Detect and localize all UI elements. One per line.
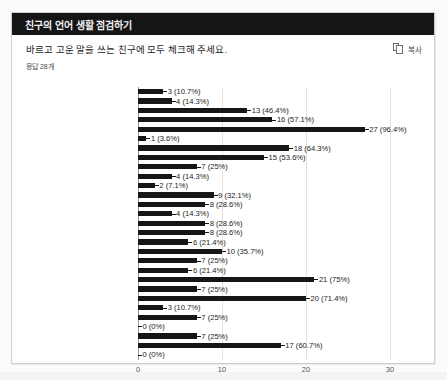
bar [138, 183, 155, 188]
bar-row: 4 (14.3%) [20, 96, 428, 105]
bar-row: 9 (32.1%) [20, 190, 428, 199]
bar-row: 18 (64.3%) [20, 143, 428, 152]
survey-result-card: 친구의 언어 생활 점검하기 바르고 고운 말을 쓰는 친구에 모두 체크해 주… [11, 12, 435, 364]
bar-value-label: 10 (35.7%) [227, 247, 264, 256]
bar-value-label: 4 (14.3%) [176, 172, 209, 181]
bar-value-label: 15 (53.6%) [269, 153, 306, 162]
bar [138, 174, 172, 179]
bar-value-label: 8 (28.6%) [210, 228, 243, 237]
bar [138, 136, 146, 141]
bar-leader-line [138, 326, 142, 327]
bar-row: 4 (14.3%) [20, 172, 428, 181]
bar-leader-line [247, 110, 251, 111]
bar-chart: 01020303 (10.7%)4 (14.3%)13 (46.4%)16 (5… [12, 75, 436, 365]
bar-row: 8 (28.6%) [20, 200, 428, 209]
bar-leader-line [138, 355, 142, 356]
bar-leader-line [281, 345, 285, 346]
bar-leader-line [163, 308, 167, 309]
bar [138, 145, 289, 150]
card-header: 친구의 언어 생활 점검하기 [12, 13, 434, 35]
bar [138, 249, 222, 254]
bar-row: 0 (0%) [20, 350, 428, 359]
bar [138, 221, 205, 226]
bar-value-label: 16 (57.1%) [277, 115, 314, 124]
bar-row: 7 (25%) [20, 313, 428, 322]
bottom-strip [0, 372, 447, 380]
bar-row: 20 (71.4%) [20, 294, 428, 303]
bar [138, 333, 197, 338]
bar-leader-line [197, 336, 201, 337]
bar-row: 13 (46.4%) [20, 106, 428, 115]
bar [138, 192, 214, 197]
bar-leader-line [272, 120, 276, 121]
bar-row: 7 (25%) [20, 284, 428, 293]
bar [138, 202, 205, 207]
bar [138, 98, 172, 103]
bar [138, 211, 172, 216]
bar-leader-line [222, 251, 226, 252]
bar-leader-line [188, 242, 192, 243]
bar-value-label: 18 (64.3%) [294, 144, 331, 153]
bar-value-label: 20 (71.4%) [311, 294, 348, 303]
bar-row: 3 (10.7%) [20, 303, 428, 312]
bar-value-label: 7 (25%) [201, 313, 228, 322]
bar-row: 6 (21.4%) [20, 266, 428, 275]
bar-row: 7 (25%) [20, 256, 428, 265]
bar [138, 108, 247, 113]
bar-row: 2 (7.1%) [20, 181, 428, 190]
bar-row: 7 (25%) [20, 162, 428, 171]
bar-row: 8 (28.6%) [20, 219, 428, 228]
question-text: 바르고 고운 말을 쓰는 친구에 모두 체크해 주세요. [26, 42, 227, 56]
bar-value-label: 13 (46.4%) [252, 106, 289, 115]
bar-leader-line [172, 214, 176, 215]
bar [138, 155, 264, 160]
bar-value-label: 7 (25%) [201, 162, 228, 171]
bar-row: 10 (35.7%) [20, 247, 428, 256]
bar-leader-line [314, 279, 318, 280]
bar-leader-line [172, 101, 176, 102]
bar-value-label: 17 (60.7%) [285, 341, 322, 350]
bar [138, 268, 188, 273]
bar-leader-line [146, 138, 150, 139]
bar [138, 117, 272, 122]
bar-leader-line [197, 289, 201, 290]
bar-leader-line [172, 176, 176, 177]
bar-leader-line [205, 223, 209, 224]
bar-value-label: 9 (32.1%) [218, 191, 251, 200]
bar-row: 8 (28.6%) [20, 228, 428, 237]
bar-value-label: 0 (0%) [143, 350, 165, 359]
bar [138, 286, 197, 291]
copy-button-label: 복사 [408, 44, 422, 55]
card-body: 바르고 고운 말을 쓰는 친구에 모두 체크해 주세요. 응답 28개 복사 0… [12, 35, 434, 365]
bar [138, 315, 197, 320]
bar-leader-line [205, 232, 209, 233]
bar-leader-line [365, 129, 369, 130]
bar-value-label: 3 (10.7%) [168, 87, 201, 96]
bar [138, 164, 197, 169]
bar-leader-line [188, 270, 192, 271]
copy-button[interactable]: 복사 [391, 41, 424, 57]
bar [138, 89, 163, 94]
bar-value-label: 1 (3.6%) [151, 134, 180, 143]
chart-plot-area: 01020303 (10.7%)4 (14.3%)13 (46.4%)16 (5… [20, 75, 428, 363]
bar-value-label: 3 (10.7%) [168, 303, 201, 312]
bar [138, 343, 281, 348]
bar-value-label: 7 (25%) [201, 332, 228, 341]
bar-value-label: 21 (75%) [319, 275, 350, 284]
question-row: 바르고 고운 말을 쓰는 친구에 모두 체크해 주세요. 응답 28개 복사 [12, 35, 434, 73]
bar-leader-line [197, 261, 201, 262]
bar-row: 6 (21.4%) [20, 237, 428, 246]
bar [138, 305, 163, 310]
bar-value-label: 8 (28.6%) [210, 200, 243, 209]
bar-row: 15 (53.6%) [20, 153, 428, 162]
bar-value-label: 4 (14.3%) [176, 209, 209, 218]
bar-leader-line [155, 185, 159, 186]
response-count: 응답 28개 [26, 61, 54, 71]
bar-leader-line [197, 167, 201, 168]
bar-row: 4 (14.3%) [20, 209, 428, 218]
bar [138, 277, 314, 282]
bar [138, 230, 205, 235]
bar-leader-line [163, 91, 167, 92]
bar-row: 21 (75%) [20, 275, 428, 284]
bar-value-label: 7 (25%) [201, 256, 228, 265]
